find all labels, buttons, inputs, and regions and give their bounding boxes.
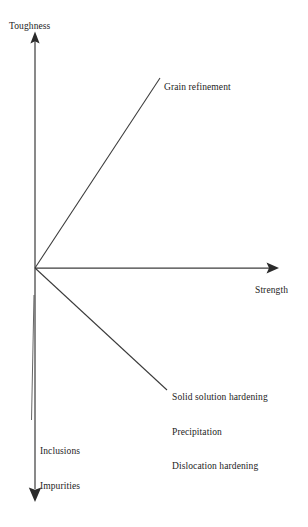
mechanism-line-dislocation-hardening: Dislocation hardening [172, 461, 268, 473]
axis-label-strength: Strength [255, 285, 288, 297]
vector-strengthening-mechanisms-line [35, 268, 167, 390]
vector-label-defects: Inclusions Impurities [40, 423, 80, 515]
diagram-canvas: Toughness Strength Grain refinement Soli… [0, 0, 308, 527]
axis-label-toughness: Toughness [9, 21, 50, 33]
defect-line-impurities: Impurities [40, 481, 80, 493]
defect-line-inclusions: Inclusions [40, 446, 80, 458]
vector-grain-refinement-line [35, 78, 160, 268]
mechanism-line-precipitation: Precipitation [172, 427, 268, 439]
vector-label-strengthening-mechanisms: Solid solution hardening Precipitation D… [172, 369, 268, 496]
vector-defects-line [32, 295, 35, 420]
vector-label-grain-refinement: Grain refinement [164, 82, 231, 94]
mechanism-line-solid-solution-hardening: Solid solution hardening [172, 392, 268, 404]
